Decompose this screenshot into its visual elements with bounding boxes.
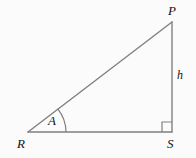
vertex-label-r: R	[17, 137, 25, 150]
vertex-label-s: S	[167, 137, 174, 150]
right-angle-marker-at-S	[162, 122, 172, 132]
angle-label-a: A	[48, 114, 56, 127]
geometry-figure: P R S h A	[0, 0, 196, 158]
side-label-h: h	[177, 69, 183, 81]
vertex-label-p: P	[168, 4, 176, 17]
triangle-drawing	[0, 0, 196, 158]
angle-arc-at-R	[58, 109, 66, 132]
